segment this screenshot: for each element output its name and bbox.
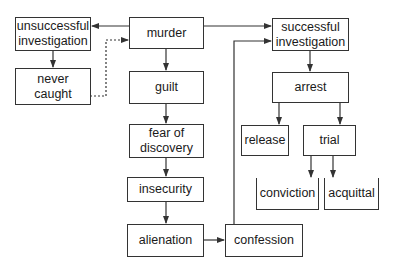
node-label: trial [319, 133, 339, 148]
node-fear-of-discovery: fear of discovery [129, 124, 204, 158]
node-unsuccessful-investigation: unsuccessful investigation [15, 17, 91, 51]
node-label: unsuccessful investigation [16, 19, 90, 49]
node-acquittal: acquittal [324, 178, 379, 210]
node-successful-investigation: successful investigation [272, 18, 349, 51]
node-label: guilt [155, 80, 178, 95]
node-label: arrest [295, 80, 327, 95]
node-guilt: guilt [129, 71, 204, 104]
node-label: conviction [260, 186, 316, 201]
node-murder: murder [129, 17, 204, 49]
node-label: murder [147, 26, 187, 41]
dotted-arrow-never-caught-to-murder [90, 40, 128, 96]
node-label: confession [234, 233, 294, 248]
node-alienation: alienation [127, 224, 204, 257]
node-label: successful investigation [273, 20, 348, 50]
node-confession: confession [225, 224, 303, 257]
node-conviction: conviction [256, 178, 319, 210]
node-release: release [241, 125, 289, 156]
node-arrest: arrest [272, 72, 349, 103]
node-never-caught: never caught [15, 68, 91, 105]
node-label: acquittal [328, 186, 375, 201]
node-label: release [245, 133, 286, 148]
node-label: alienation [139, 233, 193, 248]
node-trial: trial [303, 125, 356, 156]
node-insecurity: insecurity [127, 177, 204, 202]
node-label: fear of discovery [134, 126, 200, 156]
node-label: insecurity [139, 182, 192, 197]
node-label: never caught [28, 72, 78, 102]
